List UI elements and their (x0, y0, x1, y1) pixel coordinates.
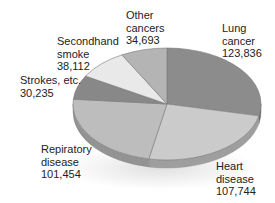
label-strokes: Strokes, etc. 30,235 (20, 74, 81, 99)
label-other-cancers: Other cancers 34,693 (126, 9, 165, 47)
label-lung-cancer: Lung cancer 123,836 (222, 22, 262, 60)
label-respiratory-disease: Repiratory disease 101,454 (41, 143, 92, 181)
label-heart-disease: Heart disease 107,744 (216, 160, 256, 198)
label-secondhand-smoke: Secondhand smoke 38,112 (57, 35, 119, 73)
